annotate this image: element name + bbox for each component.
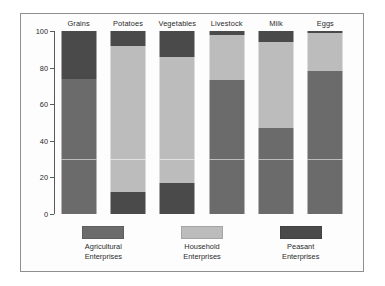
legend-swatch-agricultural [82,226,124,239]
y-axis-tick-label-80: 80 [40,63,48,72]
bar-slot-grains [54,31,103,214]
bar-segment-milk-household-enterprises[interactable] [258,42,293,128]
bar-segment-milk-agricultural-enterprises[interactable] [258,128,293,214]
y-axis-tick-label-0: 0 [44,210,48,219]
plot-area [54,31,350,214]
y-axis-tick-label-100: 100 [36,27,48,36]
stacked-bar-milk[interactable] [258,31,293,214]
bar-slot-livestock [202,31,251,214]
bar-segment-eggs-household-enterprises[interactable] [308,33,343,71]
bar-segment-vegetables-household-enterprises[interactable] [160,57,195,183]
bar-segment-livestock-household-enterprises[interactable] [209,35,244,81]
legend-swatch-household [181,226,223,239]
bar-segment-vegetables-peasant-enterprises[interactable] [160,183,195,214]
bar-segment-potatoes-peasant-enterprises[interactable] [110,31,145,46]
legend-label-line1: Peasant [282,242,319,252]
chart-figure: GrainsPotatoesVegetablesLivestockMilkEgg… [20,13,364,272]
category-label-vegetables: Vegetables [153,17,202,31]
bar-segment-potatoes-peasant-enterprises[interactable] [110,192,145,214]
legend-item-agricultural[interactable]: AgriculturalEnterprises [54,226,153,268]
bar-slot-vegetables [153,31,202,214]
stacked-bar-grains[interactable] [61,31,96,214]
category-label-grains: Grains [54,17,103,31]
category-label-milk: Milk [251,17,300,31]
category-label-eggs: Eggs [301,17,350,31]
bar-segment-livestock-agricultural-enterprises[interactable] [209,80,244,214]
legend-item-household[interactable]: HouseholdEnterprises [153,226,252,268]
stacked-bar-eggs[interactable] [308,31,343,214]
category-label-livestock: Livestock [202,17,251,31]
y-axis-tick-0 [50,214,54,215]
y-axis-tick-label-40: 40 [40,136,48,145]
stacked-bar-vegetables[interactable] [160,31,195,214]
bar-slot-eggs [301,31,350,214]
y-axis-tick-label-20: 20 [40,173,48,182]
category-label-potatoes: Potatoes [103,17,152,31]
bar-segment-milk-peasant-enterprises[interactable] [258,31,293,42]
chart-legend: AgriculturalEnterprisesHouseholdEnterpri… [54,226,350,268]
category-header-row: GrainsPotatoesVegetablesLivestockMilkEgg… [54,17,350,31]
bar-slot-milk [251,31,300,214]
y-axis-tick-label-60: 60 [40,100,48,109]
legend-swatch-peasant [280,226,322,239]
bar-segment-potatoes-household-enterprises[interactable] [110,46,145,192]
bar-slot-potatoes [103,31,152,214]
legend-label-agricultural: AgriculturalEnterprises [85,242,122,261]
legend-label-line2: Enterprises [183,252,220,262]
legend-label-line1: Household [183,242,220,252]
legend-item-peasant[interactable]: PeasantEnterprises [251,226,350,268]
legend-label-peasant: PeasantEnterprises [282,242,319,261]
stacked-bar-livestock[interactable] [209,31,244,214]
bar-segment-vegetables-peasant-enterprises[interactable] [160,31,195,57]
stacked-bar-potatoes[interactable] [110,31,145,214]
bar-segment-grains-agricultural-enterprises[interactable] [61,79,96,214]
bar-segment-grains-peasant-enterprises[interactable] [61,31,96,79]
bar-segment-eggs-agricultural-enterprises[interactable] [308,71,343,214]
legend-label-line1: Agricultural [85,242,122,252]
y-axis-labels: 020406080100 [21,31,54,214]
legend-label-household: HouseholdEnterprises [183,242,220,261]
legend-label-line2: Enterprises [282,252,319,262]
legend-label-line2: Enterprises [85,252,122,262]
